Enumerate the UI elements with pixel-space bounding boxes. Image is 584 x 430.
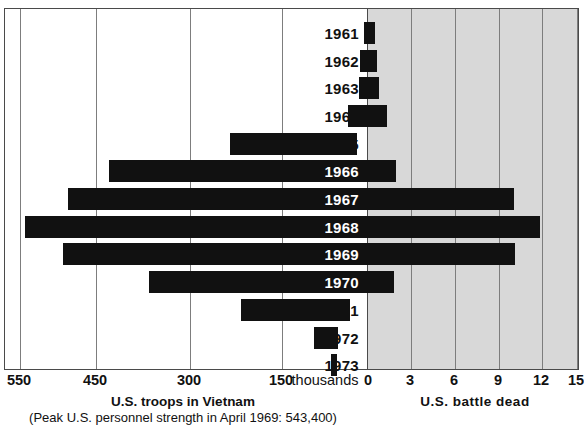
year-label-1971: 1971 [299, 301, 359, 318]
bar-row: 1971 [5, 296, 578, 324]
left-axis-caption: U.S. troops in Vietnam (Peak U.S. person… [0, 394, 366, 426]
bar-row: 1968 [5, 213, 578, 241]
year-label-1965: 1965 [299, 135, 359, 152]
bar-1961 [364, 22, 375, 44]
bar-1963 [359, 77, 379, 99]
right-axis-caption: U.S. battle dead [366, 394, 584, 410]
tick-right-3: 3 [406, 372, 414, 388]
year-label-1970: 1970 [299, 274, 359, 291]
year-label-1964: 1964 [299, 107, 359, 124]
bar-row: 1966 [5, 158, 578, 186]
year-label-1972: 1972 [299, 329, 359, 346]
chart-figure: 1961196219631964196519661967196819691970… [0, 0, 584, 430]
tick-left-300: 300 [177, 372, 201, 388]
bar-row: 1962 [5, 47, 578, 75]
left-axis-note: (Peak U.S. personnel strength in April 1… [0, 410, 366, 426]
year-label-1968: 1968 [299, 218, 359, 235]
right-axis-title: U.S. battle dead [366, 394, 584, 410]
plot-area: 1961196219631964196519661967196819691970… [4, 8, 579, 370]
year-label-1963: 1963 [299, 80, 359, 97]
bar-row: 1972 [5, 324, 578, 352]
bar-1969 [63, 243, 515, 265]
tick-right-12: 12 [533, 372, 549, 388]
bar-1962 [360, 50, 377, 72]
tick-unit-thousands: thousands [292, 372, 359, 388]
bar-1968 [25, 216, 540, 238]
tick-left-450: 450 [83, 372, 107, 388]
axis-tick-labels: 550 450 300 150 thousands 0 3 6 9 12 15 [0, 372, 584, 392]
tick-right-9: 9 [494, 372, 502, 388]
bar-rows: 1961196219631964196519661967196819691970… [5, 9, 578, 369]
year-label-1961: 1961 [299, 24, 359, 41]
bar-row: 1963 [5, 74, 578, 102]
year-label-1962: 1962 [299, 52, 359, 69]
bar-row: 1965 [5, 130, 578, 158]
left-axis-title: U.S. troops in Vietnam [0, 394, 366, 410]
bar-row: 1967 [5, 185, 578, 213]
bar-1967 [68, 188, 514, 210]
bar-row: 1961 [5, 19, 578, 47]
tick-right-15: 15 [568, 372, 584, 388]
bar-row: 1970 [5, 268, 578, 296]
tick-left-550: 550 [7, 372, 31, 388]
tick-right-6: 6 [450, 372, 458, 388]
year-label-1967: 1967 [299, 191, 359, 208]
tick-left-150: 150 [269, 372, 293, 388]
year-label-1966: 1966 [299, 163, 359, 180]
year-label-1969: 1969 [299, 246, 359, 263]
bar-row: 1964 [5, 102, 578, 130]
tick-right-0: 0 [364, 372, 372, 388]
bar-row: 1969 [5, 241, 578, 269]
